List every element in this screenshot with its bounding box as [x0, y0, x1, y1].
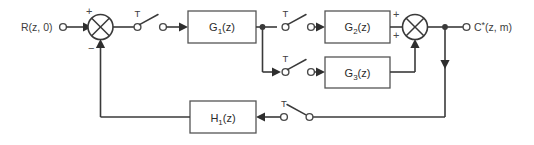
sampler-g3-blade-icon	[288, 60, 307, 70]
arrow-sampler-g3-to-g3-icon	[316, 67, 325, 76]
block-g3-group	[325, 39, 420, 88]
output-label: C*(z, m)	[474, 20, 512, 34]
arrow-sampler-forward-to-g1-icon	[179, 22, 188, 31]
output-label-args: (z, m)	[485, 21, 512, 33]
block-g3-label-arg: (z)	[358, 67, 371, 79]
summer-input-group	[88, 15, 113, 40]
sampler-forward-contact-right-icon	[160, 24, 167, 31]
branch-after-g1-group	[256, 24, 281, 77]
arrow-g3-into-summer-icon	[410, 39, 419, 48]
arrow-feedback-downward-icon	[440, 60, 449, 69]
arrow-sampler-g2-to-g2-icon	[316, 22, 325, 31]
output-label-group: C*(z, m)	[474, 20, 512, 34]
sampler-feedback-contact-left-icon	[281, 114, 288, 121]
sampler-forward-label: T	[135, 8, 141, 19]
arrow-sampler-feedback-to-h1-icon	[256, 112, 265, 121]
sampler-forward-group[interactable]	[113, 15, 188, 32]
arrow-branch-to-sampler-g3-icon	[272, 67, 281, 76]
sampler-g3-group[interactable]	[282, 60, 325, 77]
input-terminal-group	[60, 22, 92, 31]
summer-output-group	[403, 15, 428, 40]
block-g3-label-base: G	[345, 67, 354, 79]
sampler-g2-label: T	[283, 8, 289, 19]
summer-output-plus-sign-bottom: +	[393, 29, 399, 41]
block-g1-label-base: G	[209, 21, 218, 33]
sampler-feedback-label: T	[281, 98, 287, 109]
sampler-g3-contact-right-icon	[308, 69, 315, 76]
summer-input-plus-sign: +	[86, 5, 92, 17]
sampler-g2-contact-right-icon	[308, 24, 315, 31]
input-label: R(z, 0)	[21, 21, 53, 33]
block-h1-label-base: H	[210, 112, 218, 124]
sampler-feedback-blade-icon	[287, 105, 306, 115]
block-g2-label-base: G	[345, 21, 354, 33]
arrow-feedback-into-summer-icon	[96, 39, 105, 48]
sampler-forward-blade-icon	[140, 15, 159, 25]
output-terminal-icon	[463, 24, 470, 31]
block-h1-label-arg: (z)	[223, 112, 236, 124]
sampler-g2-blade-icon	[288, 15, 307, 25]
input-terminal-icon	[60, 24, 67, 31]
sampler-g2-group[interactable]	[282, 15, 325, 32]
summer-output-plus-sign-top: +	[393, 8, 399, 20]
output-group	[428, 24, 470, 31]
block-g1-label-arg: (z)	[222, 21, 235, 33]
summer-input-minus-sign: −	[88, 42, 94, 54]
block-g2-label-arg: (z)	[358, 21, 371, 33]
sampler-g3-label: T	[283, 53, 289, 64]
sampler-feedback-contact-right-icon	[306, 114, 313, 121]
block-diagram-svg: R(z, 0) C*(z, m) G1(z) G2(z) G3(z) H1(z)…	[0, 0, 534, 145]
block-diagram-canvas: R(z, 0) C*(z, m) G1(z) G2(z) G3(z) H1(z)…	[0, 0, 534, 145]
